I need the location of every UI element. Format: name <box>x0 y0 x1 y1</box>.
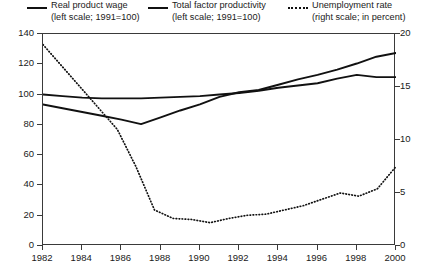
legend-label-unemployment-rate: Unemployment rate <box>312 0 405 12</box>
y-label-left: 100 <box>2 89 34 99</box>
y-label-left: 0 <box>2 240 34 250</box>
x-tick <box>42 245 43 250</box>
y-label-right: 10 <box>400 134 430 144</box>
y-label-left: 60 <box>2 149 34 159</box>
legend-item-unemployment-rate: Unemployment rate (right scale; in perce… <box>288 0 405 23</box>
legend-sublabel-unemployment-rate: (right scale; in percent) <box>312 12 405 24</box>
y-label-right: 15 <box>400 81 430 91</box>
legend-item-total-factor-productivity: Total factor productivity (left scale; 1… <box>148 0 266 23</box>
y-label-left: 80 <box>2 119 34 129</box>
y-tick-left <box>37 124 42 125</box>
y-label-left: 140 <box>2 28 34 38</box>
x-label: 1984 <box>61 252 101 263</box>
y-tick-left <box>37 215 42 216</box>
series-lines <box>43 34 396 246</box>
x-label: 2000 <box>375 252 415 263</box>
y-tick-left <box>37 94 42 95</box>
x-label: 1992 <box>218 252 258 263</box>
x-tick <box>356 245 357 250</box>
chart-legend: Real product wage (left scale; 1991=100)… <box>0 0 433 30</box>
solid-line-icon <box>148 7 168 9</box>
y-label-right: 0 <box>400 240 430 250</box>
y-label-left: 120 <box>2 58 34 68</box>
x-label: 1996 <box>297 252 337 263</box>
x-tick <box>277 245 278 250</box>
legend-item-real-product-wage: Real product wage (left scale; 1991=100) <box>27 0 140 23</box>
y-label-right: 20 <box>400 28 430 38</box>
series-line-real-product-wage <box>43 75 396 98</box>
y-tick-left <box>37 33 42 34</box>
legend-sublabel-real-product-wage: (left scale; 1991=100) <box>51 12 140 24</box>
x-tick <box>317 245 318 250</box>
y-tick-left <box>37 154 42 155</box>
x-tick <box>238 245 239 250</box>
dotted-line-icon <box>288 7 308 9</box>
plot-area <box>42 33 395 245</box>
legend-sublabel-total-factor-productivity: (left scale; 1991=100) <box>172 12 266 24</box>
y-tick-left <box>37 63 42 64</box>
x-label: 1998 <box>336 252 376 263</box>
y-tick-left <box>37 184 42 185</box>
x-tick <box>120 245 121 250</box>
series-line-unemployment-rate <box>43 45 396 223</box>
x-label: 1982 <box>22 252 62 263</box>
y-label-right: 5 <box>400 187 430 197</box>
series-line-total-factor-productivity <box>43 53 396 124</box>
x-label: 1986 <box>100 252 140 263</box>
legend-label-real-product-wage: Real product wage <box>51 0 140 12</box>
x-label: 1994 <box>257 252 297 263</box>
y-label-left: 20 <box>2 210 34 220</box>
chart-root: Real product wage (left scale; 1991=100)… <box>0 0 433 272</box>
solid-line-icon <box>27 7 47 9</box>
x-tick <box>160 245 161 250</box>
legend-label-total-factor-productivity: Total factor productivity <box>172 0 266 12</box>
y-label-left: 40 <box>2 179 34 189</box>
x-label: 1990 <box>179 252 219 263</box>
x-tick <box>395 245 396 250</box>
x-tick <box>81 245 82 250</box>
x-tick <box>199 245 200 250</box>
x-label: 1988 <box>140 252 180 263</box>
